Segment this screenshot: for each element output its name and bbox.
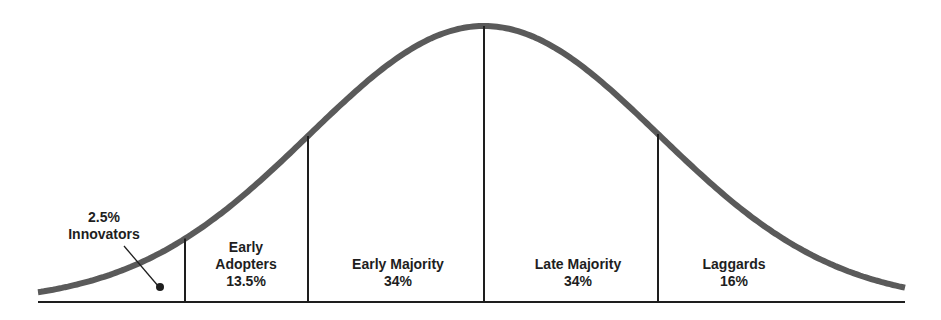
laggards-name: Laggards	[702, 256, 765, 273]
label-late-majority: Late Majority 34%	[535, 256, 621, 290]
bell-curve-diagram	[0, 0, 941, 320]
early-adopters-line2: Adopters	[215, 256, 276, 273]
label-early-majority: Early Majority 34%	[352, 256, 444, 290]
early-adopters-percent: 13.5%	[215, 273, 276, 290]
label-laggards: Laggards 16%	[702, 256, 765, 290]
innovators-name: Innovators	[68, 226, 140, 243]
bell-curve	[38, 26, 905, 292]
innovators-dot	[156, 283, 164, 291]
laggards-percent: 16%	[702, 273, 765, 290]
early-adopters-line1: Early	[215, 239, 276, 256]
late-majority-name: Late Majority	[535, 256, 621, 273]
late-majority-percent: 34%	[535, 273, 621, 290]
label-innovators: 2.5% Innovators	[68, 209, 140, 243]
early-majority-name: Early Majority	[352, 256, 444, 273]
early-majority-percent: 34%	[352, 273, 444, 290]
label-early-adopters: Early Adopters 13.5%	[215, 239, 276, 290]
innovators-percent: 2.5%	[68, 209, 140, 226]
